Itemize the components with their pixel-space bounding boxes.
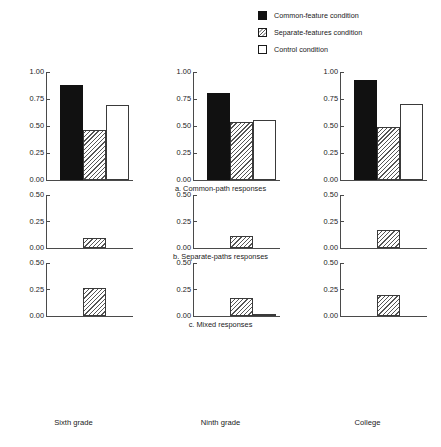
y-axis-tick-label: 0.00 xyxy=(177,175,191,184)
x-axis-label-ninth-grade: Ninth grade xyxy=(147,418,294,427)
plot-area: 0.000.250.500.751.00 xyxy=(340,72,427,181)
y-axis-tick-label: 0.50 xyxy=(324,258,338,267)
y-axis-tick-label: 0.50 xyxy=(177,258,191,267)
y-axis-tick-label: 0.50 xyxy=(177,121,191,130)
plot-area: 0.000.250.50 xyxy=(46,195,133,249)
y-axis-tick-label: 0.75 xyxy=(324,94,338,103)
plot-area: 0.000.250.500.751.00 xyxy=(193,72,280,181)
y-axis-tick-label: 0.25 xyxy=(177,148,191,157)
bar-hatch xyxy=(83,288,106,316)
bar-group xyxy=(47,72,133,180)
legend-item-label: Separate-features condition xyxy=(274,28,362,37)
bar-hatch xyxy=(83,238,106,248)
legend-item-common-feature: Common-feature condition xyxy=(258,8,438,23)
solid-black-square-icon xyxy=(258,11,267,20)
bar-group xyxy=(194,263,280,316)
panel-inner: 0.000.250.50 xyxy=(340,263,427,317)
panel-caption-b: b. Separate-paths responses xyxy=(0,252,441,263)
y-axis-tick-label: 0.50 xyxy=(177,190,191,199)
plot-area: 0.000.250.50 xyxy=(340,263,427,317)
y-axis-tick-label: 0.50 xyxy=(324,190,338,199)
bar-hatch xyxy=(377,295,400,316)
bar-solid xyxy=(60,85,83,180)
panel-caption-a: a. Common-path responses xyxy=(0,184,441,195)
chart-panel-a-1: 0.000.250.500.751.00 xyxy=(147,72,294,181)
panel-inner: 0.000.250.50 xyxy=(46,263,133,317)
bar-open xyxy=(106,105,129,180)
y-axis-tick-label: 0.00 xyxy=(30,311,44,320)
y-axis-tick-label: 0.50 xyxy=(30,190,44,199)
x-axis-label-sixth-grade: Sixth grade xyxy=(0,418,147,427)
chart-panel-grid: 0.000.250.500.751.000.000.250.500.751.00… xyxy=(0,72,441,331)
bar-hatch xyxy=(83,130,106,180)
bar-hatch xyxy=(377,127,400,180)
x-axis-label-college: College xyxy=(294,418,441,427)
bar-hatch xyxy=(230,236,253,248)
bar-open xyxy=(253,120,276,180)
y-axis-tick-label: 0.50 xyxy=(30,258,44,267)
y-axis-tick-label: 0.00 xyxy=(177,311,191,320)
x-axis-group-labels: Sixth grade Ninth grade College xyxy=(0,418,441,427)
chart-row-panels: 0.000.250.500.000.250.500.000.250.50 xyxy=(0,263,441,317)
hatched-square-icon xyxy=(258,28,267,37)
plot-area: 0.000.250.50 xyxy=(46,263,133,317)
chart-row-a: 0.000.250.500.751.000.000.250.500.751.00… xyxy=(0,72,441,195)
y-axis-tick-label: 0.00 xyxy=(30,243,44,252)
legend-item-separate-features: Separate-features condition xyxy=(258,25,438,40)
panel-inner: 0.000.250.50 xyxy=(193,195,280,249)
chart-legend: Common-feature condition Separate-featur… xyxy=(258,8,438,59)
chart-panel-c-1: 0.000.250.50 xyxy=(147,263,294,317)
y-axis-tick-label: 1.00 xyxy=(177,67,191,76)
y-axis-tick-label: 0.25 xyxy=(324,217,338,226)
chart-panel-a-0: 0.000.250.500.751.00 xyxy=(0,72,147,181)
bar-group xyxy=(341,195,427,248)
plot-area: 0.000.250.50 xyxy=(340,195,427,249)
y-axis-tick-label: 0.00 xyxy=(30,175,44,184)
y-axis-tick-label: 0.75 xyxy=(177,94,191,103)
y-axis-tick-label: 1.00 xyxy=(324,67,338,76)
bar-hatch xyxy=(377,230,400,248)
chart-panel-b-0: 0.000.250.50 xyxy=(0,195,147,249)
chart-row-panels: 0.000.250.500.000.250.500.000.250.50 xyxy=(0,195,441,249)
chart-panel-b-2: 0.000.250.50 xyxy=(294,195,441,249)
legend-item-label: Control condition xyxy=(274,45,328,54)
bar-group xyxy=(194,195,280,248)
panel-inner: 0.000.250.500.751.00 xyxy=(46,72,133,181)
bar-group xyxy=(47,195,133,248)
panel-inner: 0.000.250.50 xyxy=(193,263,280,317)
bar-open xyxy=(400,104,423,180)
plot-area: 0.000.250.50 xyxy=(193,263,280,317)
panel-inner: 0.000.250.500.751.00 xyxy=(340,72,427,181)
legend-item-control: Control condition xyxy=(258,42,438,57)
panel-inner: 0.000.250.50 xyxy=(340,195,427,249)
y-axis-tick-label: 0.25 xyxy=(30,148,44,157)
chart-row-c: 0.000.250.500.000.250.500.000.250.50c. M… xyxy=(0,263,441,331)
chart-panel-c-0: 0.000.250.50 xyxy=(0,263,147,317)
y-axis-tick-label: 1.00 xyxy=(30,67,44,76)
y-axis-tick-label: 0.25 xyxy=(30,217,44,226)
chart-row-b: 0.000.250.500.000.250.500.000.250.50b. S… xyxy=(0,195,441,263)
y-axis-tick-label: 0.25 xyxy=(177,285,191,294)
y-axis-tick-label: 0.00 xyxy=(324,311,338,320)
bar-hatch xyxy=(230,122,253,180)
y-axis-tick-label: 0.25 xyxy=(30,285,44,294)
panel-caption-c: c. Mixed responses xyxy=(0,320,441,331)
y-axis-tick-label: 0.00 xyxy=(177,243,191,252)
y-axis-tick-label: 0.00 xyxy=(324,243,338,252)
bar-solid xyxy=(207,93,230,180)
chart-panel-c-2: 0.000.250.50 xyxy=(294,263,441,317)
open-square-icon xyxy=(258,45,267,54)
y-axis-tick-label: 0.00 xyxy=(324,175,338,184)
y-axis-tick-label: 0.25 xyxy=(324,285,338,294)
y-axis-tick-label: 0.25 xyxy=(324,148,338,157)
panel-inner: 0.000.250.50 xyxy=(46,195,133,249)
bar-hatch xyxy=(230,298,253,316)
bar-solid xyxy=(354,80,377,180)
bar-open xyxy=(253,314,276,316)
chart-panel-b-1: 0.000.250.50 xyxy=(147,195,294,249)
y-axis-tick-label: 0.50 xyxy=(324,121,338,130)
y-axis-tick-label: 0.75 xyxy=(30,94,44,103)
y-axis-tick-label: 0.50 xyxy=(30,121,44,130)
bar-group xyxy=(47,263,133,316)
plot-area: 0.000.250.500.751.00 xyxy=(46,72,133,181)
